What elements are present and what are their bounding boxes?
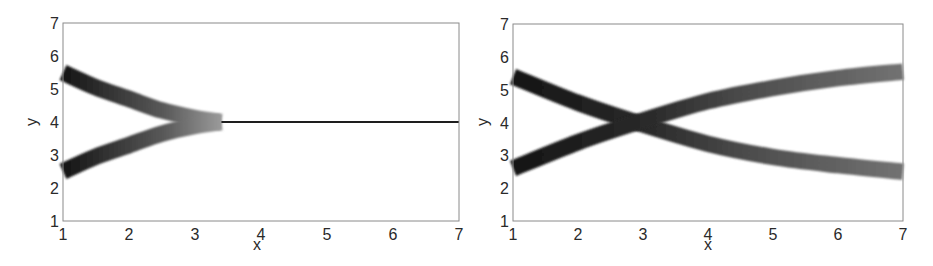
left-panel: 1234567 1234567 x y bbox=[23, 15, 464, 253]
x-tick-label: 2 bbox=[125, 226, 134, 243]
x-tick-label: 7 bbox=[899, 226, 908, 243]
y-tick-label: 4 bbox=[50, 114, 59, 131]
y-tick-label: 7 bbox=[50, 15, 59, 32]
y-tick-label: 2 bbox=[50, 180, 59, 197]
right-axes-frame bbox=[513, 24, 903, 221]
left-plot-area bbox=[63, 73, 459, 172]
y-tick-label: 3 bbox=[500, 147, 509, 164]
x-tick-label: 5 bbox=[769, 226, 778, 243]
y-tick-label: 5 bbox=[50, 81, 59, 98]
y-tick-label: 6 bbox=[500, 49, 509, 66]
x-tick-label: 3 bbox=[191, 226, 200, 243]
left-y-axis-label: y bbox=[23, 118, 40, 126]
y-tick-label: 4 bbox=[500, 115, 509, 132]
x-tick-label: 6 bbox=[389, 226, 398, 243]
data-band-upper-branch bbox=[63, 73, 221, 123]
x-tick-label: 1 bbox=[59, 226, 68, 243]
data-band-lower-branch bbox=[63, 122, 221, 172]
figure-canvas: 1234567 1234567 x y 1234567 1234567 x y bbox=[0, 0, 933, 266]
x-tick-label: 2 bbox=[574, 226, 583, 243]
x-tick-label: 6 bbox=[834, 226, 843, 243]
data-band-ascending-branch bbox=[513, 72, 903, 169]
right-x-axis-label: x bbox=[704, 236, 712, 253]
y-tick-label: 5 bbox=[500, 82, 509, 99]
data-band-descending-branch bbox=[513, 77, 903, 172]
left-x-ticks: 1234567 bbox=[59, 226, 464, 243]
right-panel: 1234567 1234567 x y bbox=[474, 16, 908, 253]
x-tick-label: 3 bbox=[639, 226, 648, 243]
right-y-axis-label: y bbox=[474, 118, 491, 126]
x-tick-label: 5 bbox=[323, 226, 332, 243]
x-tick-label: 1 bbox=[509, 226, 518, 243]
y-tick-label: 7 bbox=[500, 16, 509, 33]
left-y-ticks: 1234567 bbox=[50, 15, 59, 230]
y-tick-label: 2 bbox=[500, 180, 509, 197]
y-tick-label: 6 bbox=[50, 48, 59, 65]
figure: 1234567 1234567 x y 1234567 1234567 x y bbox=[0, 0, 933, 266]
right-y-ticks: 1234567 bbox=[500, 16, 509, 230]
left-x-axis-label: x bbox=[253, 236, 261, 253]
right-plot-area bbox=[513, 72, 903, 172]
y-tick-label: 3 bbox=[50, 147, 59, 164]
x-tick-label: 7 bbox=[455, 226, 464, 243]
